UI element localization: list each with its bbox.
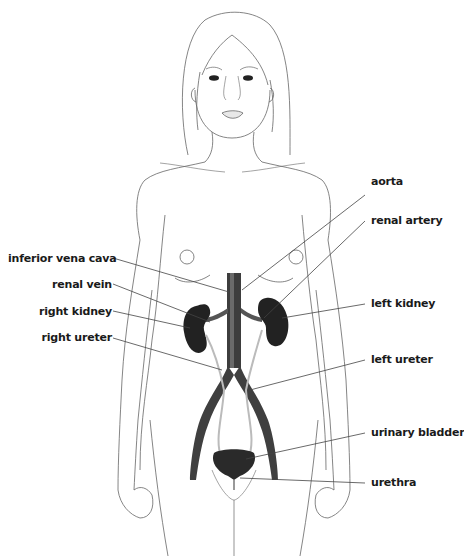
label-left-ureter: left ureter: [371, 353, 433, 366]
label-urinary-bladder: urinary bladder: [371, 426, 464, 439]
left-kidney-shape: [258, 298, 288, 346]
label-right-ureter: right ureter: [8, 331, 112, 344]
label-renal-vein: renal vein: [8, 278, 112, 291]
label-urethra: urethra: [371, 476, 416, 489]
urinary-bladder-shape: [213, 449, 255, 490]
label-right-kidney: right kidney: [8, 305, 112, 318]
label-left-kidney: left kidney: [371, 297, 435, 310]
label-inferior-vena-cava: inferior vena cava: [8, 252, 112, 265]
urinary-system-diagram: inferior vena cava renal vein right kidn…: [0, 0, 464, 556]
face-features: [209, 75, 253, 118]
right-kidney-shape: [184, 304, 211, 353]
label-aorta: aorta: [371, 175, 403, 188]
label-renal-artery: renal artery: [371, 214, 443, 227]
